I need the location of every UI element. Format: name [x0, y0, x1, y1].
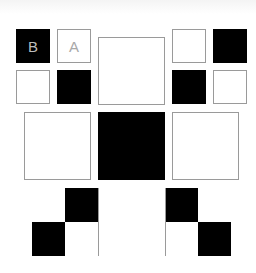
tile-mc[interactable] — [98, 112, 165, 180]
strip-cell-3[interactable] — [65, 222, 98, 256]
tile-tl3[interactable] — [57, 70, 91, 104]
tile-label: B — [28, 38, 38, 55]
tile-a[interactable]: A — [57, 29, 91, 63]
tile-tr4[interactable] — [213, 70, 247, 104]
tile-tr1[interactable] — [172, 29, 206, 63]
strip-cell-0[interactable] — [32, 188, 65, 222]
strip-cell-2[interactable] — [32, 222, 65, 256]
tile-tc[interactable] — [98, 37, 165, 105]
tile-tr2[interactable] — [213, 29, 247, 63]
tile-label: A — [69, 38, 79, 55]
strip-divider — [165, 188, 166, 256]
strip-cell-6[interactable] — [198, 188, 231, 222]
tile-b[interactable]: B — [16, 29, 50, 63]
strip-cell-4[interactable] — [98, 188, 165, 256]
strip-cell-8[interactable] — [198, 222, 231, 256]
top-bar — [0, 0, 256, 14]
tile-tr3[interactable] — [172, 70, 206, 104]
strip-cell-7[interactable] — [165, 222, 198, 256]
tile-ml[interactable] — [24, 112, 91, 180]
strip-cell-5[interactable] — [165, 188, 198, 222]
tile-tl2[interactable] — [16, 70, 50, 104]
bottom-strip — [32, 188, 231, 256]
tile-mr[interactable] — [172, 112, 239, 180]
strip-divider — [98, 188, 99, 256]
strip-cell-1[interactable] — [65, 188, 98, 222]
